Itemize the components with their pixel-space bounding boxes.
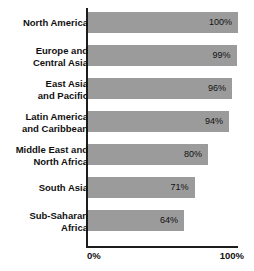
chart-row: Latin America and Caribbean94%	[0, 111, 254, 144]
bar-value-label: 80%	[184, 144, 202, 165]
bar-value-label: 99%	[212, 45, 230, 66]
bar-value-label: 71%	[170, 177, 188, 198]
category-label: North America	[4, 12, 88, 29]
bar: 100%	[88, 12, 238, 33]
bar-track: 96%	[88, 78, 238, 99]
category-label: East Asia and Pacific	[4, 78, 88, 101]
chart-row: North America100%	[0, 12, 254, 45]
bar: 64%	[88, 210, 184, 231]
chart-row: South Asia71%	[0, 177, 254, 210]
bar-track: 80%	[88, 144, 238, 165]
bar-track: 99%	[88, 45, 238, 66]
bar-chart: North America100%Europe and Central Asia…	[0, 0, 254, 271]
x-axis-line	[86, 246, 238, 248]
bar-track: 71%	[88, 177, 238, 198]
bar-value-label: 64%	[160, 210, 178, 231]
bar-value-label: 100%	[209, 12, 232, 33]
chart-row: Sub-Saharan Africa64%	[0, 210, 254, 243]
bar-value-label: 94%	[205, 111, 223, 132]
bar-track: 64%	[88, 210, 238, 231]
category-label: Middle East and North Africa	[4, 144, 88, 167]
chart-row: East Asia and Pacific96%	[0, 78, 254, 111]
x-axis-tick-max: 100%	[206, 250, 244, 261]
chart-rows: North America100%Europe and Central Asia…	[0, 12, 254, 243]
bar-track: 100%	[88, 12, 238, 33]
category-label: Latin America and Caribbean	[4, 111, 88, 134]
bar-track: 94%	[88, 111, 238, 132]
bar: 94%	[88, 111, 229, 132]
bar: 71%	[88, 177, 195, 198]
category-label: South Asia	[4, 177, 88, 194]
bar-value-label: 96%	[208, 78, 226, 99]
bar: 80%	[88, 144, 208, 165]
chart-row: Middle East and North Africa80%	[0, 144, 254, 177]
category-label: Sub-Saharan Africa	[4, 210, 88, 233]
bar: 96%	[88, 78, 232, 99]
bar: 99%	[88, 45, 237, 66]
x-axis-tick-min: 0%	[87, 250, 101, 261]
chart-row: Europe and Central Asia99%	[0, 45, 254, 78]
category-label: Europe and Central Asia	[4, 45, 88, 68]
